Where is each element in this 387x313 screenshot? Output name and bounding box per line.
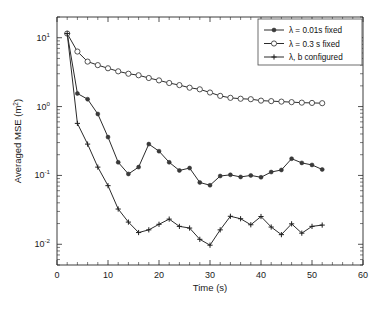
x-tick-label: 20 — [154, 270, 164, 280]
data-point-marker — [177, 168, 181, 172]
data-point-marker — [75, 49, 80, 54]
data-point-marker — [156, 78, 161, 83]
data-point-marker — [289, 100, 294, 105]
x-tick-label: 40 — [256, 270, 266, 280]
data-point-marker — [116, 69, 121, 74]
y-tick-label: 101 — [37, 31, 51, 43]
data-point-marker — [310, 163, 314, 167]
data-point-marker — [167, 160, 171, 164]
data-point-marker — [272, 28, 276, 32]
chart-figure: 0102030405060 10110010-110-2 Time (s) Av… — [0, 0, 387, 313]
data-point-marker — [218, 174, 222, 178]
data-point-marker — [259, 175, 263, 179]
data-point-marker — [320, 167, 324, 171]
data-point-marker — [105, 66, 110, 71]
data-point-marker — [136, 73, 141, 78]
y-tick-label-base: 10 — [34, 239, 44, 249]
x-axis-tick-labels: 0102030405060 — [54, 270, 368, 280]
data-point-marker — [85, 59, 90, 64]
y-tick-label-exponent: -2 — [44, 237, 50, 244]
x-tick-label: 30 — [205, 270, 215, 280]
data-point-marker — [187, 85, 192, 90]
averaged-mse-line-chart: 0102030405060 10110010-110-2 Time (s) Av… — [0, 0, 387, 313]
data-point-marker — [167, 80, 172, 85]
y-tick-label-exponent: -1 — [44, 168, 50, 175]
legend-item-label: λ = 0.3 s fixed — [289, 40, 340, 49]
x-tick-label: 0 — [54, 270, 59, 280]
data-point-marker — [208, 183, 212, 187]
data-point-marker — [271, 41, 276, 46]
x-tick-label: 50 — [307, 270, 317, 280]
data-point-marker — [279, 99, 284, 104]
y-axis-tick-labels: 10110010-110-2 — [34, 31, 50, 250]
y-tick-label-exponent: 0 — [47, 100, 51, 107]
data-point-marker — [197, 87, 202, 92]
data-point-marker — [258, 98, 263, 103]
data-point-marker — [137, 165, 141, 169]
data-point-marker — [269, 99, 274, 104]
legend: λ = 0.01s fixedλ = 0.3 s fixedλ, b confi… — [258, 19, 362, 65]
data-point-marker — [126, 71, 131, 76]
data-point-marker — [248, 97, 253, 102]
y-tick-label: 10-2 — [34, 237, 50, 249]
svg-text:Averaged MSE (m2): Averaged MSE (m2) — [12, 99, 23, 183]
data-point-marker — [96, 112, 100, 116]
data-point-marker — [86, 97, 90, 101]
data-point-marker — [299, 100, 304, 105]
data-point-marker — [147, 142, 151, 146]
legend-item-label: λ, b configured — [289, 53, 343, 62]
x-tick-label: 60 — [358, 270, 368, 280]
data-point-marker — [320, 101, 325, 106]
data-point-marker — [279, 168, 283, 172]
y-tick-label: 10-1 — [34, 168, 50, 180]
y-tick-label-exponent: 1 — [47, 31, 51, 38]
data-point-marker — [146, 75, 151, 80]
x-axis-title: Time (s) — [193, 282, 227, 293]
data-point-marker — [300, 161, 304, 165]
data-point-marker — [116, 160, 120, 164]
data-point-marker — [207, 90, 212, 95]
data-point-marker — [95, 63, 100, 68]
y-tick-label: 100 — [37, 100, 51, 112]
data-point-marker — [269, 170, 273, 174]
data-point-marker — [198, 180, 202, 184]
data-point-marker — [188, 166, 192, 170]
x-tick-label: 10 — [103, 270, 113, 280]
data-point-marker — [177, 83, 182, 88]
legend-item-label: λ = 0.01s fixed — [289, 26, 342, 35]
data-point-marker — [106, 135, 110, 139]
data-point-marker — [228, 95, 233, 100]
y-axis-title-close: ) — [12, 99, 23, 102]
data-point-marker — [228, 173, 232, 177]
data-point-marker — [309, 100, 314, 105]
y-axis-title: Averaged MSE (m2) — [12, 99, 23, 183]
y-tick-label-base: 10 — [37, 33, 47, 43]
y-tick-label-base: 10 — [37, 102, 47, 112]
data-point-marker — [238, 96, 243, 101]
data-point-marker — [239, 175, 243, 179]
data-point-marker — [249, 173, 253, 177]
y-axis-title-base: Averaged MSE (m — [12, 106, 23, 184]
data-point-marker — [75, 91, 79, 95]
data-point-marker — [157, 149, 161, 153]
data-point-marker — [126, 172, 130, 176]
data-point-marker — [290, 157, 294, 161]
y-tick-label-base: 10 — [34, 170, 44, 180]
data-point-marker — [218, 93, 223, 98]
